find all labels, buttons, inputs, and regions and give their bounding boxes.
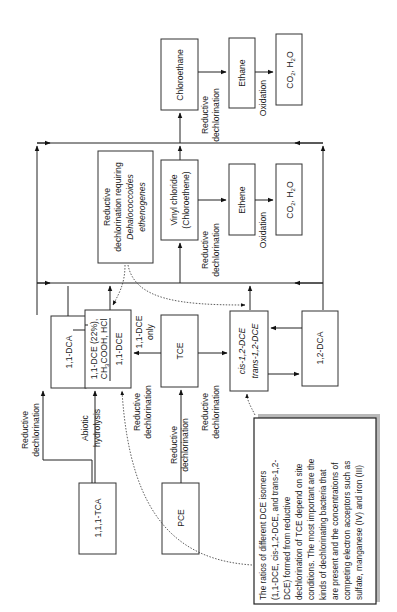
label-dechlorination: dechlorination — [143, 385, 153, 439]
node-tce-label: TCE — [175, 342, 185, 359]
svg-text:competing electron acceptors s: competing electron acceptors such as — [342, 461, 352, 600]
dhc-line3: Dehalococcoides — [125, 174, 135, 240]
degradation-pathway-diagram: 1,1,1-TCA PCE 1,1-DCA 1,1-DCE (22%), CH3… — [0, 0, 397, 612]
label-reductive: Reductive — [200, 96, 210, 134]
label-dechlorination: dechlorination — [211, 385, 221, 439]
dce12-line2: trans-1,2-DCE — [250, 323, 260, 378]
chloroethane-label: Chloroethane — [175, 49, 185, 101]
label-11dce-only: 1,1-DCE — [134, 315, 144, 348]
node-111-tca-label: 1,1,1-TCA — [93, 498, 103, 537]
node-11-dca-label: 1,1-DCA — [64, 335, 74, 368]
label-hydrolysis: hydrolysis — [92, 409, 102, 447]
label-dechlorination: dechlorination — [211, 223, 221, 277]
vc-line2: (Chloroethene) — [181, 171, 191, 228]
dhc-line1: Reductive — [102, 188, 112, 226]
svg-text:conditions. The most important: conditions. The most important are the — [306, 458, 316, 600]
dce11-line2: CH3COOH, HCl — [99, 319, 110, 380]
node-pce-label: PCE — [176, 509, 186, 527]
ethane-label: Ethane — [237, 59, 247, 86]
label-dechlorination: dechlorination — [31, 403, 41, 457]
note-text: The ratios of different DCE isomers (1,1… — [258, 458, 364, 600]
dce11-line1: 1,1-DCE (22%), — [89, 319, 99, 380]
svg-text:are present and the concentrat: are present and the concentrations of — [330, 462, 340, 600]
label-only: only — [145, 323, 155, 339]
label-reductive: Reductive — [200, 231, 210, 269]
svg-text:(1,1-DCE, cis-1,2-DCE, and tra: (1,1-DCE, cis-1,2-DCE, and trans-1,2- — [270, 460, 280, 600]
label-oxidation: Oxidation — [258, 80, 268, 117]
svg-text:sulfate, manganese (IV) and ir: sulfate, manganese (IV) and iron (III) — [354, 465, 364, 600]
label-reductive: Reductive — [132, 393, 142, 431]
label-dechlorination: dechlorination — [180, 418, 190, 472]
label-reductive: Reductive — [200, 393, 210, 431]
dhc-line2: dechlorination requiring — [113, 162, 123, 252]
node-vinyl-chloride — [161, 160, 198, 240]
label-reductive: Reductive — [169, 426, 179, 464]
dce12-line1: cis-1,2-DCE — [237, 328, 247, 375]
svg-text:DCE) formed from reductive: DCE) formed from reductive — [282, 496, 292, 600]
node-12-dce — [230, 311, 268, 391]
co2-h2o-a-label: CO2, H2O — [285, 181, 296, 219]
ethene-label: Ethene — [237, 186, 247, 213]
label-oxidation: Oxidation — [258, 212, 268, 249]
node-12-dca-label: 1,2-DCA — [315, 331, 325, 364]
vc-line1: Vinyl chloride — [169, 174, 179, 225]
label-reductive: Reductive — [20, 411, 30, 449]
dce11-line3: 1,1-DCE — [114, 332, 124, 365]
svg-text:kinds of dechlorinating bacter: kinds of dechlorinating bacteria that — [318, 469, 328, 600]
svg-text:The ratios of different DCE is: The ratios of different DCE isomers — [258, 471, 268, 600]
label-dechlorination: dechlorination — [211, 88, 221, 142]
co2-h2o-b-label: CO2, H2O — [285, 51, 296, 89]
svg-text:dechlorination of TCE depend o: dechlorination of TCE depend on site — [294, 463, 304, 600]
dhc-line4: ethenogenes — [137, 181, 147, 231]
label-abiotic: Abiotic — [80, 414, 90, 440]
